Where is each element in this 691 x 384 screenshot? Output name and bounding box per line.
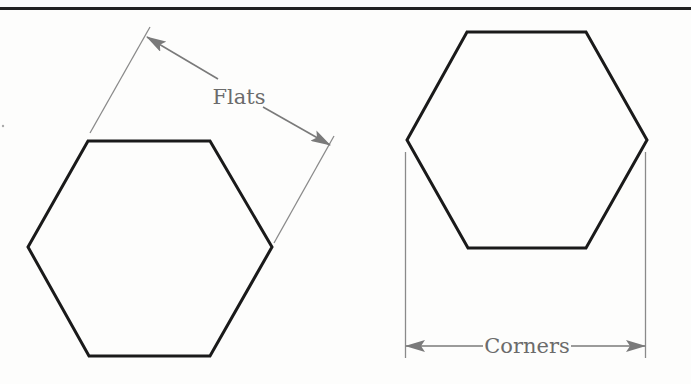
diagram-canvas: Flats Corners bbox=[0, 0, 691, 384]
flats-label: Flats bbox=[212, 85, 265, 109]
speck bbox=[2, 125, 4, 127]
left-hexagon bbox=[28, 141, 272, 356]
corners-label: Corners bbox=[484, 334, 570, 358]
flats-arrow-lower bbox=[263, 107, 330, 145]
flats-arrow-upper bbox=[147, 37, 218, 79]
flats-extension-line-left bbox=[90, 27, 150, 133]
right-hexagon bbox=[407, 32, 647, 248]
flats-extension-line-right bbox=[274, 136, 334, 243]
hexagon-diagram: Flats Corners bbox=[0, 0, 691, 384]
